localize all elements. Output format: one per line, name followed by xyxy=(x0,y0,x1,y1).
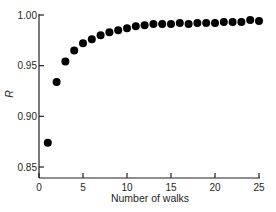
data-point xyxy=(149,20,157,28)
data-point xyxy=(158,20,166,28)
data-point xyxy=(229,18,237,26)
data-point xyxy=(246,16,254,24)
data-point xyxy=(132,22,140,30)
y-tick-label: 0.95 xyxy=(18,60,38,71)
x-tick-label: 0 xyxy=(36,182,42,193)
y-tick-label: 0.85 xyxy=(18,162,38,173)
data-point xyxy=(53,78,61,86)
axes xyxy=(39,14,260,178)
data-point xyxy=(88,35,96,43)
x-tick-label: 5 xyxy=(80,182,86,193)
x-tick-label: 20 xyxy=(209,182,221,193)
data-point xyxy=(44,139,52,147)
data-point xyxy=(176,19,184,27)
data-point xyxy=(255,17,263,25)
data-points xyxy=(44,16,263,147)
data-point xyxy=(167,20,175,28)
x-axis-title: Number of walks xyxy=(111,192,189,204)
data-point xyxy=(61,58,69,66)
y-axis-title: R xyxy=(3,90,15,98)
data-point xyxy=(141,21,149,29)
data-point xyxy=(114,26,122,34)
x-ticks: 0510152025 xyxy=(36,173,265,193)
x-tick-label: 25 xyxy=(253,182,265,193)
data-point xyxy=(211,19,219,27)
y-tick-label: 0.90 xyxy=(18,111,38,122)
data-point xyxy=(193,19,201,27)
data-point xyxy=(237,18,245,26)
y-tick-label: 1.00 xyxy=(18,10,38,21)
data-point xyxy=(220,18,228,26)
data-point xyxy=(70,46,78,54)
data-point xyxy=(202,19,210,27)
data-point xyxy=(185,20,193,28)
data-point xyxy=(79,39,87,47)
y-ticks: 0.850.900.951.00 xyxy=(18,10,44,173)
data-point xyxy=(105,28,113,36)
data-point xyxy=(123,24,131,32)
data-point xyxy=(97,31,105,39)
scatter-chart: 0.850.900.951.00 0510152025 Number of wa… xyxy=(0,0,276,212)
